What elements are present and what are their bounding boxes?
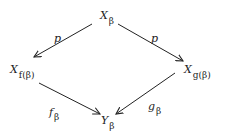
label-g-beta: gβ xyxy=(148,97,161,113)
label-f-beta: fβ xyxy=(49,103,59,119)
node-x-g-beta: Xg(β) xyxy=(184,60,211,76)
node-subscript: f(β) xyxy=(19,70,35,80)
label-p-right: p xyxy=(151,29,158,45)
node-subscript: g(β) xyxy=(193,70,211,80)
node-main: X xyxy=(10,63,18,76)
label-subscript: β xyxy=(54,112,59,122)
commutative-diagram: Xβ Xf(β) Xg(β) Yβ p p fβ gβ xyxy=(0,0,230,136)
arrow-top-left xyxy=(34,24,92,57)
arrow-right-bottom xyxy=(116,73,175,114)
node-subscript: β xyxy=(109,16,114,26)
node-y-beta: Yβ xyxy=(101,111,114,127)
label-main: p xyxy=(151,32,158,45)
node-subscript: β xyxy=(109,121,114,131)
label-p-left: p xyxy=(54,29,61,45)
label-main: g xyxy=(148,100,155,113)
label-subscript: β xyxy=(156,106,161,116)
label-main: p xyxy=(54,32,61,45)
node-main: Y xyxy=(101,114,108,127)
node-main: X xyxy=(184,63,192,76)
node-x-f-beta: Xf(β) xyxy=(10,60,34,76)
label-main: f xyxy=(49,106,53,119)
node-main: X xyxy=(100,9,108,22)
node-x-beta: Xβ xyxy=(100,6,114,22)
